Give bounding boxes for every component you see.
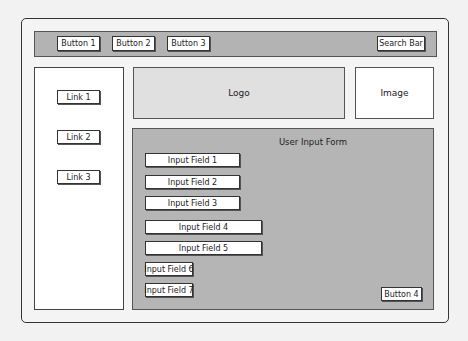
sidebar-link-2[interactable]: Link 2 <box>57 130 100 144</box>
input-field-6[interactable]: Input Field 6 <box>145 262 193 276</box>
nav-button-1[interactable]: Button 1 <box>57 36 100 51</box>
sidebar-link-1[interactable]: Link 1 <box>57 90 100 104</box>
image-placeholder: Image <box>355 67 434 119</box>
nav-button-2[interactable]: Button 2 <box>112 36 155 51</box>
logo: Logo <box>133 67 345 119</box>
search-bar[interactable]: Search Bar <box>377 36 425 51</box>
nav-button-3[interactable]: Button 3 <box>167 36 210 51</box>
submit-button[interactable]: Button 4 <box>381 287 422 301</box>
input-field-1[interactable]: Input Field 1 <box>145 153 240 167</box>
input-field-4[interactable]: Input Field 4 <box>145 220 262 234</box>
input-field-2[interactable]: Input Field 2 <box>145 175 240 189</box>
input-field-3[interactable]: Input Field 3 <box>145 196 240 210</box>
sidebar-link-3[interactable]: Link 3 <box>57 170 100 184</box>
input-field-7[interactable]: Input Field 7 <box>145 283 193 297</box>
form-title: User Input Form <box>133 137 433 147</box>
input-field-5[interactable]: Input Field 5 <box>145 241 262 255</box>
